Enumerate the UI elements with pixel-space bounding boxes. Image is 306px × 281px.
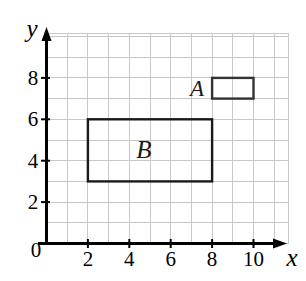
y-axis-label: y bbox=[23, 15, 38, 42]
shape-b-label: B bbox=[136, 136, 151, 163]
x-tick-label-2: 2 bbox=[83, 247, 94, 271]
y-tick-label-0: 0 bbox=[31, 238, 42, 262]
y-tick-label-8: 8 bbox=[28, 66, 39, 90]
shape-a-label: A bbox=[188, 76, 205, 101]
y-tick-label-2: 2 bbox=[28, 190, 39, 214]
y-tick-label-6: 6 bbox=[28, 107, 39, 131]
y-axis bbox=[42, 27, 52, 243]
x-tick-label-10: 10 bbox=[243, 247, 264, 271]
x-tick-label-6: 6 bbox=[165, 247, 176, 271]
x-tick-label-4: 4 bbox=[124, 247, 135, 271]
graph-svg: y x 0 2 4 6 8 2 4 6 8 10 A B bbox=[0, 0, 306, 281]
x-tick-label-8: 8 bbox=[207, 247, 218, 271]
coordinate-grid-figure: y x 0 2 4 6 8 2 4 6 8 10 A B bbox=[0, 0, 306, 281]
grid-lines bbox=[46, 33, 289, 244]
y-tick-label-4: 4 bbox=[28, 149, 39, 173]
x-axis-label: x bbox=[285, 244, 297, 271]
